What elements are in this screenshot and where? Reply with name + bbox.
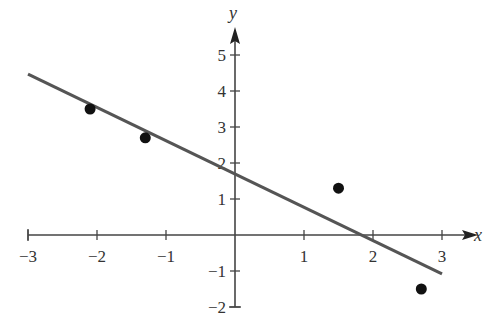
x-tick-label: −3 xyxy=(19,247,37,266)
scatter-plot-with-regression-line: −3−2−1123−2−112345 x y xyxy=(0,0,492,329)
y-tick-label: 1 xyxy=(218,190,227,209)
x-tick-label: −1 xyxy=(157,247,175,266)
y-tick-label: 3 xyxy=(218,118,227,137)
y-tick-label: 4 xyxy=(218,82,227,101)
y-axis-label: y xyxy=(227,3,237,23)
data-point xyxy=(416,284,427,295)
x-tick-label: 3 xyxy=(438,247,447,266)
ticks: −3−2−1123−2−112345 xyxy=(19,46,446,317)
data-point xyxy=(85,104,96,115)
x-tick-label: −2 xyxy=(88,247,106,266)
x-tick-label: 2 xyxy=(369,247,378,266)
data-point xyxy=(333,183,344,194)
y-tick-label: −2 xyxy=(208,298,226,317)
data-point xyxy=(140,132,151,143)
y-tick-label: 5 xyxy=(218,46,227,65)
x-tick-label: 1 xyxy=(300,247,309,266)
y-tick-label: −1 xyxy=(208,262,226,281)
x-axis-label: x xyxy=(473,225,482,245)
